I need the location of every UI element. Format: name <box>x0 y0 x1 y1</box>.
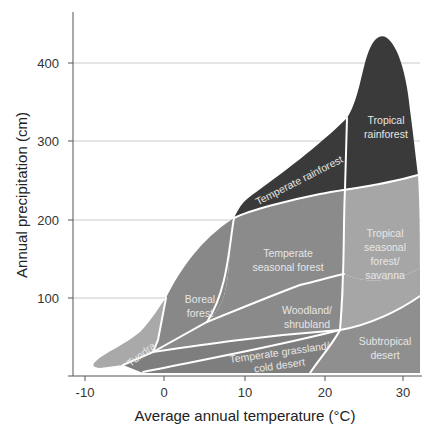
x-tick-label: -10 <box>76 385 95 400</box>
label-boreal-line2: forest <box>187 307 213 319</box>
x-tick-label: 20 <box>318 385 332 400</box>
region-tropical-rainforest <box>345 36 418 189</box>
label-temperate-seasonal-line2: seasonal forest <box>252 261 323 273</box>
y-tick-label: 300 <box>37 134 59 149</box>
label-temperate-seasonal-line1: Temperate <box>263 247 313 259</box>
label-tropical-seasonal-line2: seasonal <box>364 241 406 253</box>
label-subtropical-desert-line2: desert <box>370 349 399 361</box>
x-axis-title: Average annual temperature (°C) <box>135 407 356 424</box>
label-subtropical-desert-line1: Subtropical <box>359 335 412 347</box>
y-tick-label: 100 <box>37 291 59 306</box>
x-tick-labels: -10 0 10 20 30 <box>76 385 411 400</box>
y-tick-labels: 400 300 200 100 <box>37 56 59 306</box>
label-tropical-rainforest-line1: Tropical <box>368 114 405 126</box>
label-tropical-seasonal-line1: Tropical <box>367 227 404 239</box>
label-tropical-seasonal-line4: savanna <box>365 269 405 281</box>
y-tick-label: 200 <box>37 213 59 228</box>
x-tick-label: 0 <box>160 385 167 400</box>
label-woodland-line2: shrubland <box>284 318 330 330</box>
label-tropical-seasonal-line3: forest/ <box>370 255 399 267</box>
label-boreal-line1: Boreal <box>185 293 215 305</box>
y-tick-label: 400 <box>37 56 59 71</box>
x-tick-label: 10 <box>238 385 252 400</box>
biome-diagram: -10 0 10 20 30 400 300 200 100 Average a… <box>0 0 430 435</box>
x-tick-label: 30 <box>396 385 410 400</box>
y-axis-title: Annual precipitation (cm) <box>13 112 30 278</box>
label-woodland-line1: Woodland/ <box>282 304 332 316</box>
label-tropical-rainforest-line2: rainforest <box>364 128 408 140</box>
